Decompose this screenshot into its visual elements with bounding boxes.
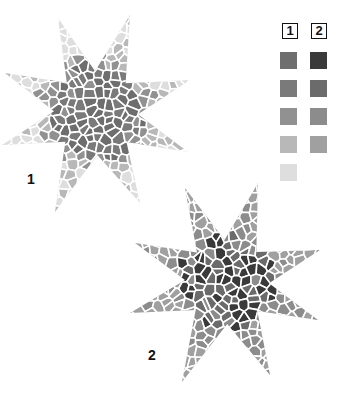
mosaic-tile (294, 255, 306, 268)
mosaic-tile (312, 185, 324, 195)
mosaic-tile (321, 280, 339, 293)
mosaic-tile (131, 357, 141, 370)
mosaic-tile (12, 63, 24, 75)
mosaic-tile (232, 202, 242, 215)
mosaic-tile (146, 214, 158, 226)
mosaic-tile (311, 281, 322, 292)
legend-swatch-1-2 (280, 80, 297, 97)
mosaic-tile (294, 290, 304, 301)
mosaic-tile (165, 59, 173, 70)
mosaic-tile (88, 166, 101, 179)
mosaic-tile (178, 327, 186, 338)
mosaic-tile (319, 350, 332, 363)
mosaic-tile (127, 26, 141, 34)
mosaic-tile (141, 191, 151, 203)
mosaic-tile (173, 162, 185, 175)
mosaic-tile (248, 382, 258, 401)
mosaic-tile (274, 379, 285, 395)
mosaic-tile (32, 25, 41, 36)
mosaic-tile (230, 349, 239, 358)
mosaic-tile (189, 96, 203, 107)
mosaic-tile (141, 14, 151, 26)
mosaic-tile (82, 3, 96, 19)
mosaic-tile (291, 273, 302, 284)
mosaic-tile (0, 215, 7, 235)
mosaic-tile (292, 282, 304, 294)
mosaic-tile (194, 123, 214, 137)
mosaic-tile (196, 100, 216, 120)
legend-swatch-1-3 (280, 108, 297, 125)
mosaic-tile (32, 141, 41, 153)
mosaic-tile (112, 352, 133, 368)
mosaic-tile (158, 322, 170, 331)
mosaic-tile (5, 26, 18, 37)
mosaic-tile (204, 182, 215, 194)
mosaic-tile (160, 51, 173, 61)
mosaic-tile (169, 89, 180, 100)
mosaic-tile (174, 205, 183, 215)
mosaic-tile (167, 107, 178, 117)
mosaic-tile (119, 205, 135, 215)
mosaic-tile (314, 301, 323, 314)
mosaic-tile (197, 156, 215, 175)
mosaic-tile (268, 329, 280, 339)
mosaic-tile (4, 15, 14, 28)
mosaic-tile (279, 328, 288, 338)
mosaic-tile (41, 153, 53, 163)
mosaic-tile (0, 161, 3, 170)
mosaic-tile (65, 207, 75, 216)
mosaic-tile (172, 215, 184, 227)
legend-header-1: 1 (282, 23, 298, 39)
mosaic-tile (242, 354, 252, 366)
mosaic-tile (274, 314, 287, 324)
mosaic-tile (291, 320, 305, 333)
mosaic-tile (109, 216, 123, 234)
mosaic-tile (158, 211, 171, 224)
mosaic-tile (301, 329, 311, 342)
mosaic-tile (165, 374, 176, 384)
mosaic-tile (38, 203, 49, 217)
mosaic-tile (194, 64, 214, 74)
mosaic-tile (24, 22, 35, 36)
mosaic-tile (189, 103, 198, 114)
mosaic-tile (293, 198, 303, 207)
mosaic-tile (273, 229, 284, 241)
mosaic-tile (29, 64, 39, 75)
mosaic-tile (40, 0, 52, 19)
mosaic-tile (312, 371, 323, 385)
mosaic-tile (312, 209, 321, 221)
mosaic-tile (321, 208, 336, 222)
mosaic-tile (116, 300, 136, 312)
mosaic-tile (94, 179, 105, 190)
mosaic-tile (23, 94, 35, 107)
mosaic-tile (276, 373, 286, 383)
mosaic-tile (322, 341, 343, 364)
mosaic-tile (299, 354, 311, 364)
mosaic-tile (193, 85, 215, 101)
mosaic-tile (22, 34, 31, 44)
mosaic-tile (185, 39, 198, 53)
mosaic-tile (158, 60, 169, 70)
mosaic-tile (0, 0, 4, 19)
mosaic-tile (0, 54, 8, 68)
mosaic-tile (288, 327, 299, 339)
mosaic-tile (137, 38, 148, 49)
mosaic-tile (273, 365, 285, 379)
mosaic-tile (14, 85, 24, 96)
mosaic-tile (159, 207, 171, 220)
mosaic-tile (63, 15, 74, 26)
mosaic-tile (278, 186, 288, 197)
mosaic-tile (130, 1, 144, 23)
mosaic-tile (154, 184, 167, 196)
mosaic-tile (156, 150, 166, 161)
mosaic-tile (113, 190, 120, 206)
mosaic-tile (4, 96, 16, 108)
mosaic-tile (311, 259, 324, 269)
mosaic-tile (231, 185, 240, 197)
mosaic-tile (48, 172, 58, 182)
mosaic-tile (161, 238, 174, 247)
mosaic-tile (22, 14, 33, 25)
mosaic-tile (250, 201, 261, 212)
mosaic-tile (160, 165, 173, 186)
mosaic-tile (232, 357, 242, 371)
